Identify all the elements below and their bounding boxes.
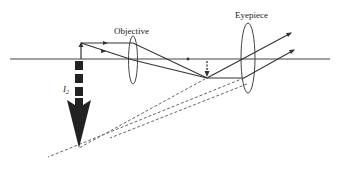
object-arrow-icon [79,42,84,59]
intermediate-image-arrow-icon [205,61,210,77]
eyepiece-rays [207,33,295,79]
objective-label: Objective [114,26,149,36]
final-image-arrow-icon [67,61,91,148]
eyepiece-lens [241,23,255,93]
image-label: I2 [62,84,69,95]
eyepiece-label: Eyepiece [235,10,268,20]
focal-point-dot [187,58,190,61]
image-label-sub: 2 [66,89,69,95]
microscope-ray-diagram: Objective Eyepiece [0,0,348,169]
